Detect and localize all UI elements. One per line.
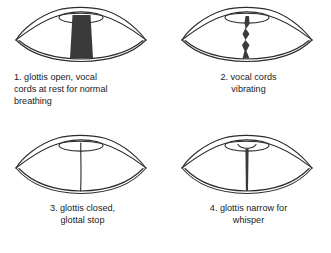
panel-glottis-closed: 3. glottis closed, glottal stop <box>0 126 165 252</box>
vibrating-cords-shape <box>242 16 250 59</box>
panel-2-caption: 2. vocal cords vibrating <box>166 71 331 95</box>
panel-glottis-open: 1. glottis open, vocal cords at rest for… <box>0 0 165 126</box>
panel-3-caption: 3. glottis closed, glottal stop <box>0 202 165 226</box>
panel-vocal-cords-vibrating: 2. vocal cords vibrating <box>166 0 331 126</box>
vocal-cords-vibrating-icon <box>174 2 324 68</box>
glottis-positions-figure: 1. glottis open, vocal cords at rest for… <box>0 0 331 253</box>
panel-1-caption: 1. glottis open, vocal cords at rest for… <box>0 71 165 108</box>
glottis-aperture-shape <box>70 15 93 59</box>
panel-glottis-narrow: 4. glottis narrow for whisper <box>166 126 331 252</box>
whisper-triangle-opening <box>238 145 256 149</box>
glottis-open-icon <box>8 2 158 68</box>
glottis-closed-icon <box>8 130 158 200</box>
panel-4-caption: 4. glottis narrow for whisper <box>166 202 331 226</box>
narrow-glottis-shape <box>245 149 248 192</box>
glottis-narrow-icon <box>174 130 324 200</box>
